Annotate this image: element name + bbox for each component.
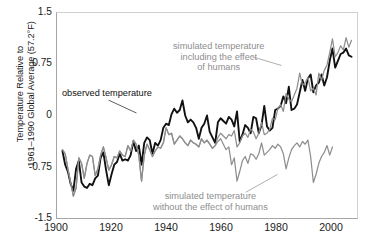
annotation-sim-human-line2: including the effect xyxy=(173,52,264,63)
annotation-observed-temperature: observed temperature xyxy=(62,88,152,99)
leader-observed xyxy=(109,100,137,113)
y-tick-4: -0.75 xyxy=(20,162,52,172)
x-tick-1: 1900 xyxy=(33,221,79,233)
x-axis-tick-labels: 1900 1920 1940 1960 1980 2000 xyxy=(0,221,368,237)
y-tick-3: 0 xyxy=(20,110,52,120)
x-tick-3: 1940 xyxy=(143,221,189,233)
y-tick-1: 1.5 xyxy=(20,7,52,17)
annotation-sim-nat-line2: without the effect of humans xyxy=(153,202,268,213)
annotation-sim-human-line3: of humans xyxy=(173,62,264,73)
x-tick-5: 1980 xyxy=(253,221,299,233)
y-tick-2: 0.75 xyxy=(20,58,52,68)
leader-sim-nat xyxy=(246,174,278,192)
annotation-observed-label: observed temperature xyxy=(62,88,152,99)
annotation-simulated-without-humans: simulated temperature without the effect… xyxy=(153,191,268,212)
x-tick-4: 1960 xyxy=(198,221,244,233)
annotation-simulated-with-humans: simulated temperature including the effe… xyxy=(173,41,264,73)
annotation-sim-human-line1: simulated temperature xyxy=(173,41,264,52)
annotation-sim-nat-line1: simulated temperature xyxy=(153,191,268,202)
x-tick-2: 1920 xyxy=(88,221,134,233)
x-tick-6: 2000 xyxy=(308,221,354,233)
y-axis-tick-labels: 1.5 0.75 0 -0.75 -1.5 xyxy=(18,0,52,248)
climate-attribution-chart: Temperature Relative to 1961–1990 Global… xyxy=(0,0,368,248)
series-line-2 xyxy=(62,128,332,196)
